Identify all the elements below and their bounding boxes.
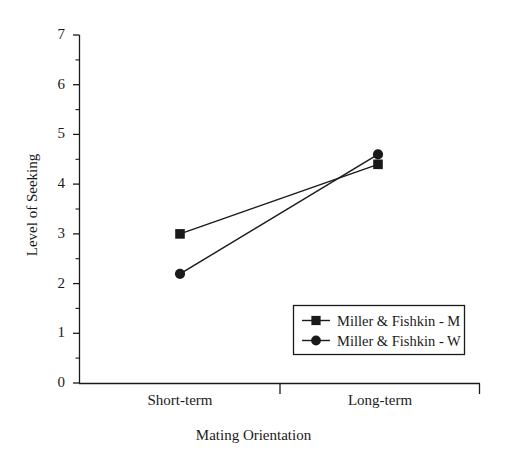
x-axis-title: Mating Orientation (0, 427, 507, 444)
y-axis-title: Level of Seeking (24, 154, 41, 256)
figure-canvas: 7 6 5 4 3 2 1 0 Short-term Long-term Lev… (0, 0, 507, 462)
data-point-marker-square (373, 160, 383, 170)
legend-label-miller-fishkin-w: Miller & Fishkin - W (337, 333, 461, 350)
data-point-marker-square (175, 229, 185, 239)
x-tick-label-short-term: Short-term (120, 393, 240, 408)
data-point-marker-circle (175, 269, 185, 279)
x-tick-label-long-term: Long-term (320, 393, 440, 408)
data-point-marker-circle (373, 149, 383, 159)
series-line-miller-fishkin-w (175, 149, 383, 279)
y-axis-title-wrap: Level of Seeking (12, 0, 52, 462)
series-line-miller-fishkin-m (175, 160, 383, 239)
legend-label-miller-fishkin-m: Miller & Fishkin - M (337, 313, 460, 330)
